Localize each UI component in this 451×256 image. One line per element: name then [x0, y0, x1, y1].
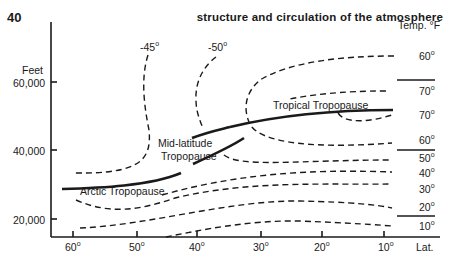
isotherm-label-minus-45: -45o	[140, 42, 159, 53]
tropopause-lines	[62, 110, 393, 189]
isotherm-minus-45	[75, 55, 149, 173]
atmosphere-cross-section-diagram	[0, 0, 451, 256]
mid-latitude-label-line1: Mid-latitude	[158, 138, 212, 149]
isotherm-lines	[75, 55, 394, 237]
isotherm-label-right-20: 20o	[419, 202, 435, 213]
isotherm-10	[166, 221, 392, 237]
isotherm-label-right-30: 30o	[419, 184, 435, 195]
x-tick-50: 50o	[129, 242, 145, 253]
y-tick-40000: 40,000	[13, 146, 45, 157]
isotherm-minus-50	[196, 57, 216, 126]
isotherm-label-right-60-top: 60o	[419, 51, 435, 62]
x-tick-30: 30o	[253, 242, 269, 253]
arctic-tropopause-label: Arctic Tropopause	[80, 186, 165, 197]
isotherm-70-upper	[290, 91, 386, 99]
isotherm-label-right-50: 50o	[419, 153, 435, 164]
y-tick-20000: 20,000	[13, 215, 45, 226]
isotherm-label-right-40: 40o	[419, 168, 435, 179]
isotherm-40	[162, 171, 392, 195]
x-tick-20: 20o	[314, 242, 330, 253]
tropical-tropopause-line	[230, 110, 393, 127]
isotherm-50	[224, 155, 392, 162]
isotherm-label-right-10: 10o	[419, 221, 435, 232]
x-tick-10: 10o	[378, 242, 394, 253]
y-tick-60000: 60,000	[13, 78, 45, 89]
y-axis-unit: Feet	[22, 65, 43, 76]
tropical-tropopause-label: Tropical Tropopause	[273, 100, 368, 111]
isotherm-label-right-60: 60o	[419, 135, 435, 146]
isotherm-label-right-70-a: 70o	[419, 86, 435, 97]
isotherm-20	[80, 201, 392, 228]
axes	[51, 22, 440, 237]
isotherm-70-lower	[338, 113, 392, 121]
reference-bars	[397, 80, 435, 216]
x-axis-unit: Lat.	[416, 242, 434, 253]
isotherm-label-minus-50: -50o	[208, 42, 227, 53]
isotherm-label-right-70-b: 70o	[419, 110, 435, 121]
temperature-unit-label: Temp. °F	[398, 20, 440, 31]
x-tick-60: 60o	[65, 242, 81, 253]
x-tick-40: 40o	[189, 242, 205, 253]
mid-latitude-label-line2: Tropopause	[161, 151, 217, 162]
